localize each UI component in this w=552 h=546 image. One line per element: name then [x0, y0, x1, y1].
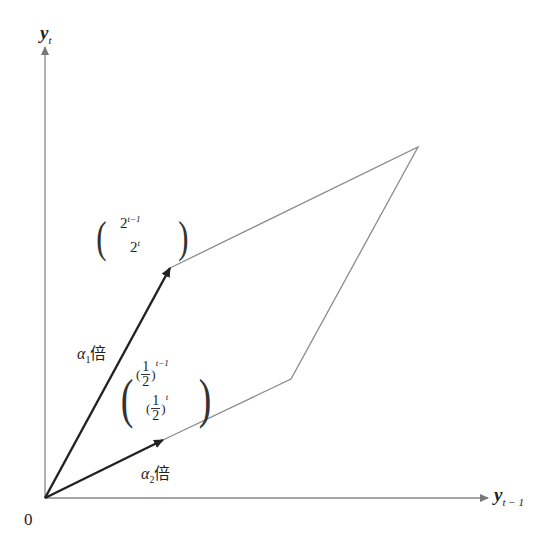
y-axis-label-sub: t: [48, 34, 51, 46]
right-paren: ): [199, 368, 212, 430]
right-paren: ): [178, 212, 188, 263]
vector-1-row-2: 2t: [130, 238, 140, 256]
x-axis-label-sub: t − 1: [502, 496, 523, 508]
vector-1-scale-label: α1倍: [77, 340, 106, 365]
vector-2-row-2: (12)t: [146, 394, 168, 423]
vector-1-row-1: 2t−1: [120, 214, 141, 232]
x-axis-label: yt − 1: [494, 484, 524, 508]
vector-1-components: ( 2t−1 2t ): [94, 212, 204, 272]
left-paren: (: [121, 368, 134, 430]
vector-2-components: ( (12)t−1 (12)t ): [118, 360, 228, 440]
diagram-canvas: [0, 0, 552, 546]
origin-label: 0: [24, 510, 33, 530]
left-paren: (: [96, 212, 106, 263]
y-axis-label: yt: [40, 22, 52, 46]
vector-2-scale-label: α2倍: [141, 460, 170, 485]
vector-2-row-1: (12)t−1: [136, 360, 169, 389]
